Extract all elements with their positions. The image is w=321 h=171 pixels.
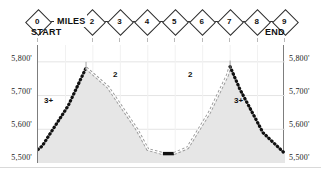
y-axis-tick-left-5800: 5,800' — [0, 54, 32, 63]
y-axis-tick-right-5600: 5,600' — [289, 120, 310, 129]
y-axis-tick-right-5500: 5,500' — [289, 153, 310, 162]
y-axis-tick-right-5800: 5,800' — [289, 54, 310, 63]
elevation-profile-figure: 023456789 MILES START END 5,800' 5,700' … — [0, 0, 321, 171]
plot-frame — [37, 45, 284, 163]
y-axis-tick-right-5700: 5,700' — [289, 87, 310, 96]
grade-label-left-steep: 3+ — [44, 96, 53, 105]
elevation-plot — [38, 45, 285, 163]
chart-area: 5,800' 5,700' 5,600' 5,500' 5,800' 5,700… — [0, 42, 321, 171]
mile-marker-label-7: 7 — [221, 13, 238, 30]
end-label: END — [265, 27, 285, 37]
y-axis-tick-left-5700: 5,700' — [0, 87, 32, 96]
y-axis-tick-left-5500: 5,500' — [0, 153, 32, 162]
y-axis-tick-left-5600: 5,600' — [0, 120, 32, 129]
grade-label-right-steep: 3+ — [234, 96, 243, 105]
start-label: START — [31, 27, 61, 37]
mile-marker-label-3: 3 — [111, 13, 128, 30]
mile-marker-strip: 023456789 MILES START END — [0, 0, 321, 40]
mile-marker-label-6: 6 — [193, 13, 210, 30]
mile-marker-label-8: 8 — [248, 13, 265, 30]
mile-marker-label-5: 5 — [166, 13, 183, 30]
mile-marker-label-4: 4 — [138, 13, 155, 30]
miles-axis-label: MILES — [57, 16, 86, 26]
bottom-divider — [0, 167, 321, 168]
grade-label-left-moderate: 2 — [113, 70, 117, 79]
grade-label-right-moderate: 2 — [188, 70, 192, 79]
